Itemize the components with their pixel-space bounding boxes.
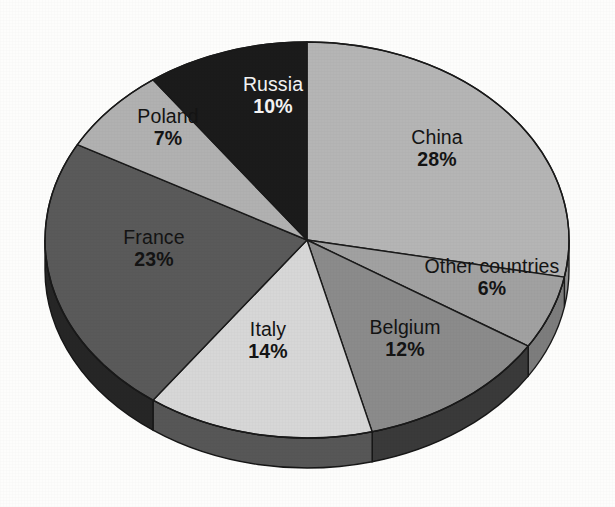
pie-chart-canvas — [0, 0, 615, 507]
pie-top-faces — [45, 42, 569, 438]
pie-slice-china[interactable] — [307, 42, 569, 277]
pie-chart-figure: China28%Other countries6%Belgium12%Italy… — [0, 0, 615, 507]
